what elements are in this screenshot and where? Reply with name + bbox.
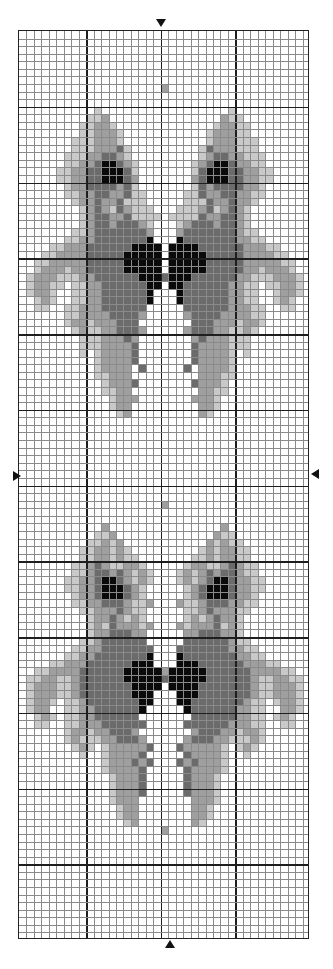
grid-line bbox=[19, 243, 308, 244]
grid-line bbox=[19, 796, 308, 797]
grid-line bbox=[19, 652, 308, 653]
major-grid-line bbox=[19, 258, 308, 260]
grid-line bbox=[19, 122, 308, 123]
major-grid-line bbox=[19, 334, 308, 336]
grid-line bbox=[19, 629, 308, 630]
grid-line bbox=[19, 205, 308, 206]
grid-line bbox=[19, 387, 308, 388]
grid-line bbox=[19, 720, 308, 721]
major-grid-line bbox=[19, 410, 308, 412]
grid-line bbox=[19, 364, 308, 365]
grid-line bbox=[19, 296, 308, 297]
grid-line bbox=[19, 645, 308, 646]
grid-line bbox=[19, 463, 308, 464]
grid-line bbox=[19, 455, 308, 456]
grid-line bbox=[19, 281, 308, 282]
grid-line bbox=[19, 319, 308, 320]
grid-line bbox=[19, 432, 308, 433]
grid-line bbox=[19, 92, 308, 93]
grid-line bbox=[19, 705, 308, 706]
grid-line bbox=[19, 546, 308, 547]
grid-line bbox=[19, 357, 308, 358]
grid-line bbox=[19, 470, 308, 471]
grid-line bbox=[19, 895, 308, 896]
grid-line bbox=[19, 849, 308, 850]
top-center-marker-icon bbox=[156, 19, 166, 27]
grid-line bbox=[19, 304, 308, 305]
grid-line bbox=[19, 289, 308, 290]
grid-line bbox=[19, 539, 308, 540]
grid-line bbox=[19, 114, 308, 115]
grid-line bbox=[19, 735, 308, 736]
grid-line bbox=[19, 440, 308, 441]
grid-line bbox=[19, 379, 308, 380]
right-center-marker-icon bbox=[311, 469, 319, 479]
major-grid-line bbox=[19, 637, 308, 639]
grid-line bbox=[19, 569, 308, 570]
grid-line bbox=[19, 682, 308, 683]
left-center-marker-icon bbox=[13, 471, 21, 481]
grid-line bbox=[19, 614, 308, 615]
grid-line bbox=[19, 69, 308, 70]
grid-line bbox=[19, 660, 308, 661]
grid-line bbox=[19, 501, 308, 502]
grid-line bbox=[19, 46, 308, 47]
grid-line bbox=[19, 842, 308, 843]
grid-line bbox=[19, 137, 308, 138]
grid-line bbox=[19, 61, 308, 62]
grid-line bbox=[19, 523, 308, 524]
grid-line bbox=[19, 76, 308, 77]
grid-line bbox=[19, 417, 308, 418]
grid-line bbox=[19, 622, 308, 623]
grid-line bbox=[19, 925, 308, 926]
grid-line bbox=[19, 198, 308, 199]
grid-line bbox=[19, 599, 308, 600]
grid-line bbox=[19, 478, 308, 479]
grid-line bbox=[19, 372, 308, 373]
grid-line bbox=[19, 145, 308, 146]
grid-line bbox=[19, 342, 308, 343]
grid-line bbox=[19, 584, 308, 585]
grid-line bbox=[19, 395, 308, 396]
grid-line bbox=[19, 667, 308, 668]
grid-line bbox=[19, 698, 308, 699]
grid-line bbox=[19, 129, 308, 130]
grid-line bbox=[19, 872, 308, 873]
major-grid-line bbox=[19, 561, 308, 563]
grid-line bbox=[19, 910, 308, 911]
grid-line bbox=[19, 84, 308, 85]
grid-line bbox=[19, 349, 308, 350]
grid-line bbox=[19, 902, 308, 903]
grid-line bbox=[19, 781, 308, 782]
grid-line bbox=[19, 493, 308, 494]
grid-line bbox=[19, 690, 308, 691]
cross-stitch-chart bbox=[18, 30, 309, 939]
grid-line bbox=[19, 448, 308, 449]
grid-line bbox=[19, 728, 308, 729]
grid-line bbox=[19, 167, 308, 168]
major-grid-line bbox=[19, 713, 308, 715]
grid-line bbox=[19, 220, 308, 221]
major-grid-line bbox=[19, 789, 308, 791]
grid-line bbox=[19, 826, 308, 827]
major-grid-line bbox=[19, 486, 308, 488]
grid-line bbox=[19, 39, 308, 40]
major-grid-line bbox=[19, 183, 308, 185]
major-grid-line bbox=[19, 107, 308, 109]
grid-line bbox=[19, 932, 308, 933]
grid-line bbox=[19, 190, 308, 191]
grid-line bbox=[19, 607, 308, 608]
grid-line bbox=[19, 311, 308, 312]
grid-line bbox=[19, 516, 308, 517]
grid-line bbox=[19, 773, 308, 774]
grid-line bbox=[19, 917, 308, 918]
grid-line bbox=[19, 425, 308, 426]
grid-line bbox=[19, 766, 308, 767]
grid-line bbox=[19, 236, 308, 237]
grid-line bbox=[19, 834, 308, 835]
grid-line bbox=[19, 402, 308, 403]
bottom-center-marker-icon bbox=[165, 940, 175, 948]
grid-line bbox=[19, 160, 308, 161]
grid-line bbox=[19, 152, 308, 153]
grid-line bbox=[19, 213, 308, 214]
